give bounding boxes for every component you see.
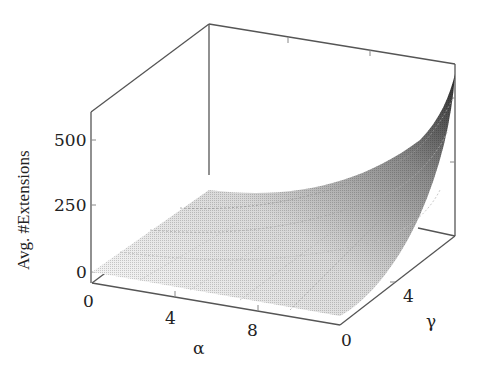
plot-canvas xyxy=(0,0,478,380)
y-tick-4: 4 xyxy=(403,288,414,305)
z-tick-250: 250 xyxy=(54,197,86,214)
x-tick-4: 4 xyxy=(165,310,176,327)
z-tick-500: 500 xyxy=(54,132,86,149)
z-axis-label: Avg. #Extensions xyxy=(14,150,34,270)
z-tick-0: 0 xyxy=(76,264,87,281)
x-tick-0: 0 xyxy=(83,293,94,310)
surface-plot: Avg. #Extensions 500 250 0 0 4 8 α 0 4 γ xyxy=(0,0,478,380)
surface xyxy=(92,74,455,316)
x-tick-8: 8 xyxy=(247,322,258,339)
x-axis-label: α xyxy=(193,340,204,357)
y-axis-label: γ xyxy=(426,313,436,330)
y-tick-0: 0 xyxy=(341,332,352,349)
